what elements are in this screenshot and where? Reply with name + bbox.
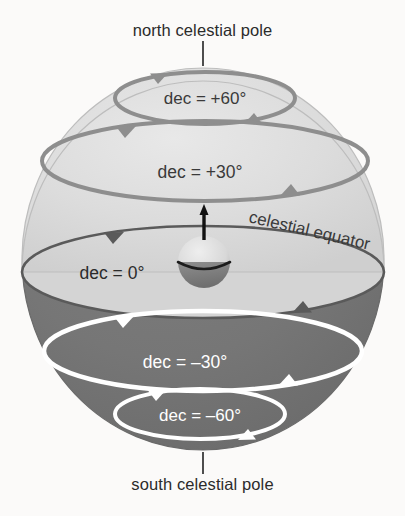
- celestial-sphere-diagram: dec = +60° dec = +30° dec = 0° dec = –30…: [0, 0, 405, 516]
- declination-label-30: dec = +30°: [158, 162, 243, 182]
- south-celestial-pole-label: south celestial pole: [0, 476, 405, 493]
- declination-label-minus60: dec = –60°: [159, 406, 241, 425]
- north-celestial-pole-label: north celestial pole: [0, 22, 405, 39]
- declination-label-minus30: dec = –30°: [143, 352, 227, 372]
- declination-label-60: dec = +60°: [164, 89, 246, 108]
- celestial-sphere-figure: dec = +60° dec = +30° dec = 0° dec = –30…: [0, 0, 405, 516]
- declination-label-0: dec = 0°: [80, 263, 145, 283]
